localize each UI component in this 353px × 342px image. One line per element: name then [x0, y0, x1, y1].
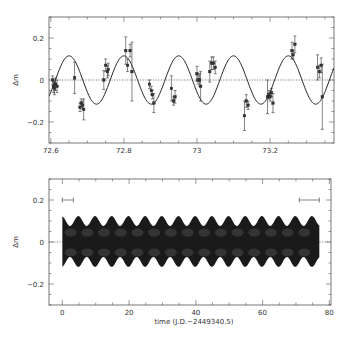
- texture-lobe: [282, 229, 294, 237]
- point-marker: [103, 79, 106, 82]
- data-point: [271, 94, 274, 113]
- texture-lobe: [298, 229, 310, 237]
- texture-lobe: [131, 229, 143, 237]
- texture-lobe: [81, 229, 93, 237]
- texture-lobe: [165, 249, 177, 257]
- texture-lobe: [198, 229, 210, 237]
- window-bar: [299, 198, 319, 203]
- window-bar: [62, 198, 73, 203]
- texture-lobe: [248, 229, 260, 237]
- texture-lobe: [131, 249, 143, 257]
- figure: 72.672.87373.20.20−0.2Δm 0204060800.20−0…: [0, 0, 353, 342]
- point-marker: [73, 77, 76, 80]
- x-tick-label: 60: [258, 309, 267, 317]
- texture-lobe: [215, 229, 227, 237]
- point-marker: [247, 104, 250, 107]
- y-axis-label: Δm: [12, 236, 20, 248]
- point-marker: [148, 83, 151, 86]
- point-marker: [316, 66, 319, 69]
- texture-lobe: [148, 249, 160, 257]
- texture-lobe: [98, 249, 110, 257]
- data-point: [124, 37, 127, 64]
- x-tick-label: 73.2: [262, 147, 278, 155]
- point-marker: [174, 96, 177, 99]
- x-tick-label: 40: [191, 309, 200, 317]
- model-envelope-band: [62, 216, 319, 267]
- texture-lobe: [165, 229, 177, 237]
- texture-lobe: [65, 229, 77, 237]
- texture-lobe: [215, 249, 227, 257]
- data-point: [316, 55, 319, 80]
- x-tick-label: 20: [125, 309, 134, 317]
- point-marker: [107, 68, 110, 71]
- data-point: [266, 80, 269, 114]
- y-tick-label: 0.2: [33, 35, 44, 43]
- texture-lobe: [232, 249, 244, 257]
- data-point: [321, 64, 324, 129]
- texture-lobe: [265, 229, 277, 237]
- data-point: [243, 101, 246, 130]
- texture-lobe: [148, 229, 160, 237]
- texture-lobe: [98, 229, 110, 237]
- texture-lobe: [181, 229, 193, 237]
- data-point: [148, 80, 151, 88]
- point-marker: [153, 102, 156, 105]
- point-marker: [172, 100, 175, 103]
- point-marker: [170, 87, 173, 90]
- point-marker: [321, 96, 324, 99]
- point-marker: [214, 66, 217, 69]
- x-tick-label: 73: [193, 147, 202, 155]
- y-axis-label: Δm: [12, 74, 20, 86]
- point-marker: [272, 102, 275, 105]
- y-tick-label: −0.2: [27, 119, 44, 127]
- top-panel: 72.672.87373.20.20−0.2Δm: [12, 17, 334, 155]
- texture-lobe: [81, 249, 93, 257]
- chart-canvas: 72.672.87373.20.20−0.2Δm 0204060800.20−0…: [0, 0, 353, 342]
- point-marker: [196, 72, 199, 75]
- x-tick-label: 80: [325, 309, 334, 317]
- point-marker: [243, 114, 246, 117]
- data-point: [129, 44, 132, 57]
- texture-lobe: [248, 249, 260, 257]
- texture-lobe: [115, 229, 127, 237]
- texture-lobe: [198, 249, 210, 257]
- point-marker: [129, 49, 132, 52]
- data-point: [152, 94, 155, 113]
- point-marker: [208, 70, 211, 73]
- data-point: [293, 36, 296, 53]
- x-tick-label: 72.8: [116, 147, 132, 155]
- texture-lobe: [282, 249, 294, 257]
- data-point: [170, 76, 173, 101]
- point-marker: [199, 85, 202, 88]
- texture-lobe: [232, 229, 244, 237]
- texture-lobe: [181, 249, 193, 257]
- data-point: [126, 59, 129, 72]
- x-axis-label: time (J.D.−2449340.5): [154, 318, 233, 326]
- texture-lobe: [298, 249, 310, 257]
- point-marker: [82, 108, 85, 111]
- point-marker: [294, 43, 297, 46]
- y-tick-label: 0: [40, 77, 44, 85]
- texture-lobe: [65, 249, 77, 257]
- texture-lobe: [115, 249, 127, 257]
- data-point: [102, 71, 105, 90]
- point-marker: [131, 70, 134, 73]
- data-point: [73, 62, 76, 94]
- texture-lobe: [265, 249, 277, 257]
- bottom-panel: 0204060800.20−0.2Δmtime (J.D.−2449340.5): [12, 179, 334, 326]
- x-tick-label: 72.6: [43, 147, 59, 155]
- point-marker: [124, 49, 127, 52]
- point-marker: [126, 64, 129, 67]
- y-tick-label: 0: [40, 239, 44, 247]
- point-marker: [56, 85, 59, 88]
- x-tick-label: 0: [60, 309, 64, 317]
- point-marker: [212, 62, 215, 65]
- y-tick-label: −0.2: [27, 281, 44, 289]
- point-marker: [292, 54, 295, 57]
- y-tick-label: 0.2: [33, 197, 44, 205]
